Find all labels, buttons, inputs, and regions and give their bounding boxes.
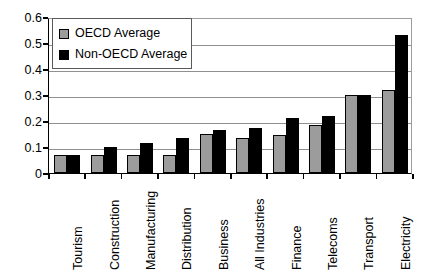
bar-oecd [309, 125, 322, 173]
x-axis-tick-mark [121, 174, 123, 179]
bar-group [267, 19, 303, 173]
x-axis-category-label-text: Transport [363, 217, 376, 270]
x-axis-category-label-text: Business [218, 219, 231, 270]
bar-non-oecd [176, 138, 189, 173]
x-axis-tick-mark [376, 174, 378, 179]
x-axis-category-label-text: Tourism [72, 226, 85, 270]
x-axis-category-label-text: Electricity [400, 217, 413, 270]
bar-non-oecd [213, 130, 226, 173]
y-axis-tick-label: 0.3 [2, 90, 42, 103]
x-axis-category-label-text: All Industries [254, 198, 267, 270]
x-axis-tick-mark [157, 174, 159, 179]
bar-oecd [273, 135, 286, 173]
y-axis-tick-label: 0.2 [2, 116, 42, 129]
x-axis-tick-mark [303, 174, 305, 179]
legend-entry: OECD Average [59, 23, 185, 44]
bar-oecd [91, 155, 104, 173]
bar-non-oecd [358, 95, 371, 173]
bar-non-oecd [395, 35, 408, 173]
y-axis-tick-label: 0.5 [2, 38, 42, 51]
bar-oecd [54, 155, 67, 173]
y-axis-tick-label: 0.6 [2, 12, 42, 25]
bar-oecd [345, 95, 358, 173]
x-axis-tick-mark [48, 174, 50, 179]
x-axis-tick-mark [266, 174, 268, 179]
x-axis-category-label-text: Construction [109, 200, 122, 270]
chart-legend: OECD AverageNon-OECD Average [52, 18, 192, 69]
bar-oecd [200, 134, 213, 173]
x-axis-category-label-text: Manufacturing [145, 191, 158, 270]
legend-label: OECD Average [75, 27, 160, 40]
y-axis-tick-label: 0.4 [2, 64, 42, 77]
y-axis: 00.10.20.30.40.50.6 [0, 0, 42, 274]
legend-swatch-icon [59, 50, 69, 60]
bar-non-oecd [286, 118, 299, 173]
bar-oecd [236, 138, 249, 173]
x-axis-category-label-text: Telecoms [327, 217, 340, 270]
bar-oecd [382, 90, 395, 173]
x-axis-category-label-text: Finance [291, 226, 304, 270]
bar-group [304, 19, 340, 173]
x-axis-tick-mark [194, 174, 196, 179]
y-axis-tick-label: 0.1 [2, 142, 42, 155]
bar-group [377, 19, 413, 173]
x-axis-tick-mark [412, 174, 414, 179]
bar-non-oecd [67, 155, 80, 173]
y-axis-tick-label: 0 [2, 168, 42, 181]
x-axis-tick-mark [230, 174, 232, 179]
bar-group [195, 19, 231, 173]
legend-label: Non-OECD Average [75, 48, 187, 61]
legend-entry: Non-OECD Average [59, 44, 185, 65]
bar-non-oecd [322, 116, 335, 173]
bar-non-oecd [104, 147, 117, 173]
x-axis-tick-mark [339, 174, 341, 179]
x-axis-tick-mark [84, 174, 86, 179]
bar-group [231, 19, 267, 173]
bar-group [340, 19, 376, 173]
x-axis-category-label-text: Distribution [181, 207, 194, 270]
bar-non-oecd [140, 143, 153, 173]
bar-non-oecd [249, 128, 262, 174]
bar-oecd [163, 155, 176, 173]
bar-oecd [127, 155, 140, 173]
legend-swatch-icon [59, 29, 69, 39]
bar-chart-figure: 00.10.20.30.40.50.6 TourismConstructionM… [0, 0, 426, 274]
